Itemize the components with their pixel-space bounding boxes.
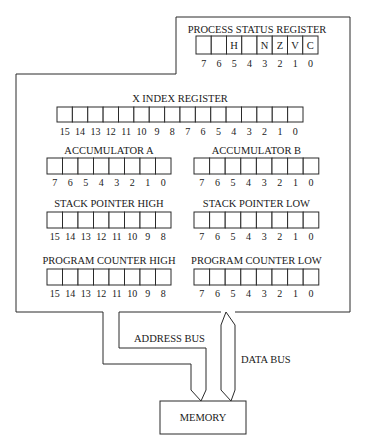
register-pc-low: PROGRAM COUNTER LOW76543210 bbox=[191, 255, 322, 299]
data-bus-label: DATA BUS bbox=[241, 354, 291, 365]
bit-number: 1 bbox=[293, 231, 298, 242]
bit-number: 5 bbox=[231, 177, 236, 188]
register-group-container: PROCESS STATUS REGISTER76H54N3Z2V1C0X IN… bbox=[42, 24, 326, 299]
address-bus-arrow bbox=[103, 312, 206, 401]
register-bit-cell bbox=[256, 158, 272, 174]
register-label: ACCUMULATOR A bbox=[64, 145, 154, 156]
register-bit-cell bbox=[256, 269, 272, 285]
bit-number: 11 bbox=[121, 126, 131, 137]
bit-number: 7 bbox=[199, 231, 204, 242]
bit-number: 5 bbox=[216, 126, 221, 137]
bit-number: 4 bbox=[99, 177, 104, 188]
register-bit-cell bbox=[94, 158, 110, 174]
register-label: PROGRAM COUNTER LOW bbox=[191, 255, 322, 266]
register-bit-cell bbox=[109, 212, 125, 228]
bit-number: 1 bbox=[293, 177, 298, 188]
register-bit-cell bbox=[47, 212, 63, 228]
bit-number: 5 bbox=[231, 231, 236, 242]
bit-number: 5 bbox=[231, 288, 236, 299]
bit-number: 6 bbox=[68, 177, 73, 188]
register-bit-cell bbox=[140, 269, 156, 285]
bit-number: 2 bbox=[262, 126, 267, 137]
bit-number: 12 bbox=[96, 288, 106, 299]
register-bit-cell bbox=[47, 269, 63, 285]
register-x-index: X INDEX REGISTER1514131211109876543210 bbox=[57, 93, 303, 137]
bit-number: 1 bbox=[293, 288, 298, 299]
status-flag: C bbox=[307, 40, 314, 51]
bit-number: 2 bbox=[277, 177, 282, 188]
bit-number: 7 bbox=[199, 177, 204, 188]
register-bit-cell bbox=[256, 212, 272, 228]
status-flag: V bbox=[291, 40, 299, 51]
register-bit-cell bbox=[134, 107, 149, 122]
bit-number: 0 bbox=[309, 288, 314, 299]
bit-number: 12 bbox=[106, 126, 116, 137]
register-bit-cell bbox=[195, 107, 210, 122]
register-label: STACK POINTER HIGH bbox=[54, 198, 164, 209]
bit-number: 3 bbox=[262, 177, 267, 188]
bit-number: 6 bbox=[201, 126, 206, 137]
register-bit-cell bbox=[288, 269, 304, 285]
bit-number: 7 bbox=[199, 288, 204, 299]
bit-number: 4 bbox=[246, 288, 251, 299]
bit-number: 3 bbox=[247, 126, 252, 137]
register-bit-cell bbox=[156, 212, 172, 228]
register-bit-cell bbox=[241, 212, 257, 228]
bit-number: 9 bbox=[145, 288, 150, 299]
bit-number: 6 bbox=[216, 58, 221, 69]
bit-number: 4 bbox=[247, 58, 252, 69]
bit-number: 5 bbox=[83, 177, 88, 188]
bit-number: 7 bbox=[185, 126, 190, 137]
register-bit-cell bbox=[140, 158, 156, 174]
register-bit-cell bbox=[165, 107, 180, 122]
register-bit-cell bbox=[225, 212, 241, 228]
bit-number: 4 bbox=[246, 177, 251, 188]
register-label: X INDEX REGISTER bbox=[132, 93, 228, 104]
bit-number: 6 bbox=[215, 231, 220, 242]
register-acc-a: ACCUMULATOR A76543210 bbox=[47, 145, 171, 188]
register-bit-cell bbox=[272, 269, 288, 285]
register-label: ACCUMULATOR B bbox=[212, 145, 301, 156]
register-bit-cell bbox=[225, 269, 241, 285]
register-bit-cell bbox=[63, 158, 79, 174]
bit-number: 8 bbox=[161, 231, 166, 242]
register-label: PROCESS STATUS REGISTER bbox=[188, 24, 327, 35]
status-flag: H bbox=[230, 40, 238, 51]
register-sp-low: STACK POINTER LOW76543210 bbox=[194, 198, 319, 242]
bit-number: 0 bbox=[308, 58, 313, 69]
register-bit-cell bbox=[125, 269, 141, 285]
register-bit-cell bbox=[303, 269, 319, 285]
register-bit-cell bbox=[88, 107, 103, 122]
bit-number: 2 bbox=[130, 177, 135, 188]
register-bit-cell bbox=[272, 158, 288, 174]
bit-number: 6 bbox=[215, 288, 220, 299]
bit-number: 8 bbox=[161, 288, 166, 299]
register-bit-cell bbox=[109, 269, 125, 285]
bit-number: 4 bbox=[231, 126, 236, 137]
bit-number: 11 bbox=[112, 288, 122, 299]
register-bit-cell bbox=[210, 269, 226, 285]
register-acc-b: ACCUMULATOR B76543210 bbox=[194, 145, 319, 188]
register-bit-cell bbox=[242, 107, 257, 122]
bit-number: 11 bbox=[112, 231, 122, 242]
memory-label: MEMORY bbox=[180, 412, 227, 423]
register-bit-cell bbox=[242, 36, 257, 54]
register-bit-cell bbox=[156, 269, 172, 285]
register-bit-cell bbox=[210, 212, 226, 228]
register-bit-cell bbox=[78, 158, 94, 174]
register-bit-cell bbox=[303, 158, 319, 174]
register-bit-cell bbox=[241, 158, 257, 174]
bit-number: 2 bbox=[277, 288, 282, 299]
register-bit-cell bbox=[125, 158, 141, 174]
register-bit-cell bbox=[272, 107, 287, 122]
register-bit-cell bbox=[149, 107, 164, 122]
bit-number: 15 bbox=[50, 288, 60, 299]
register-psr: PROCESS STATUS REGISTER76H54N3Z2V1C0 bbox=[188, 24, 327, 69]
register-label: PROGRAM COUNTER HIGH bbox=[42, 255, 175, 266]
register-bit-cell bbox=[57, 107, 72, 122]
register-bit-cell bbox=[194, 269, 210, 285]
bit-number: 9 bbox=[154, 126, 159, 137]
bit-number: 5 bbox=[232, 58, 237, 69]
register-bit-cell bbox=[140, 212, 156, 228]
register-bit-cell bbox=[109, 158, 125, 174]
